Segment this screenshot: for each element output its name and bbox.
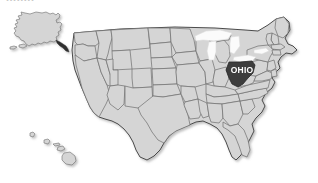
hawaii-molokai	[53, 143, 60, 146]
inset-hawaii	[30, 132, 76, 165]
state-iowa	[172, 51, 199, 65]
state-montana	[111, 28, 150, 51]
state-kansas	[152, 68, 177, 85]
state-wyoming	[112, 50, 132, 70]
state-connecticut	[272, 50, 281, 55]
contiguous-us: OHIO	[72, 17, 297, 160]
us-locator-map-figure: ........	[0, 0, 318, 183]
ohio-state-label: OHIO	[231, 65, 254, 75]
alaska-shape	[14, 12, 62, 46]
hawaii-maui	[57, 146, 65, 151]
hawaii-kauai	[30, 132, 35, 137]
inset-alaska	[10, 12, 69, 52]
state-colorado	[132, 68, 152, 88]
alaska-panhandle	[56, 40, 69, 52]
lake-michigan	[207, 41, 216, 60]
hawaii-oahu	[44, 139, 50, 144]
state-south-dakota	[150, 42, 172, 58]
alaska-aleutians	[10, 46, 17, 49]
us-map-svg: OHIO	[0, 0, 318, 183]
state-washington	[74, 31, 99, 46]
hawaii-big-island	[62, 152, 76, 165]
state-nebraska	[151, 57, 176, 69]
alaska-aleutians-2	[19, 44, 27, 48]
state-north-dakota	[148, 28, 171, 44]
